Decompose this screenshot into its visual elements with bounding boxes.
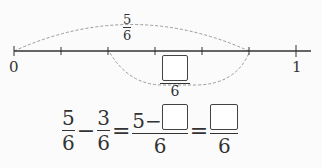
top-arc-numerator: 5: [123, 13, 131, 26]
top-arc-denominator: 6: [123, 29, 131, 42]
equals-sign: =: [112, 118, 130, 143]
minus-sign: −: [77, 118, 95, 143]
denominator: 6: [218, 135, 231, 157]
number-line-diagram: [0, 0, 322, 100]
numerator: 5: [62, 107, 75, 129]
denominator: 6: [154, 135, 167, 157]
top-arc: [14, 25, 249, 52]
blank-box-subtrahend[interactable]: [162, 104, 188, 130]
fraction-5-minus-blank-over-6: 5− 6: [132, 104, 187, 157]
fraction-5-6: 5 6: [62, 107, 75, 154]
numerator-prefix: 5−: [132, 110, 161, 132]
bottom-arc-fraction: 6: [162, 55, 188, 99]
bottom-arc-denominator: 6: [171, 84, 180, 99]
numerator: 3: [97, 107, 110, 129]
subtraction-equation: 5 6 − 3 6 = 5− 6 = 6: [62, 104, 238, 157]
blank-box-result[interactable]: [210, 104, 238, 130]
bottom-arc-blank-box[interactable]: [162, 55, 188, 81]
denominator: 6: [62, 132, 75, 154]
label-zero: 0: [9, 60, 19, 75]
fraction-3-6: 3 6: [97, 107, 110, 154]
top-arc-fraction: 5 6: [123, 13, 131, 42]
equals-sign: =: [190, 118, 208, 143]
label-one: 1: [292, 60, 302, 75]
denominator: 6: [97, 132, 110, 154]
numerator: 5−: [132, 104, 187, 132]
fraction-blank-over-6: 6: [210, 104, 238, 157]
